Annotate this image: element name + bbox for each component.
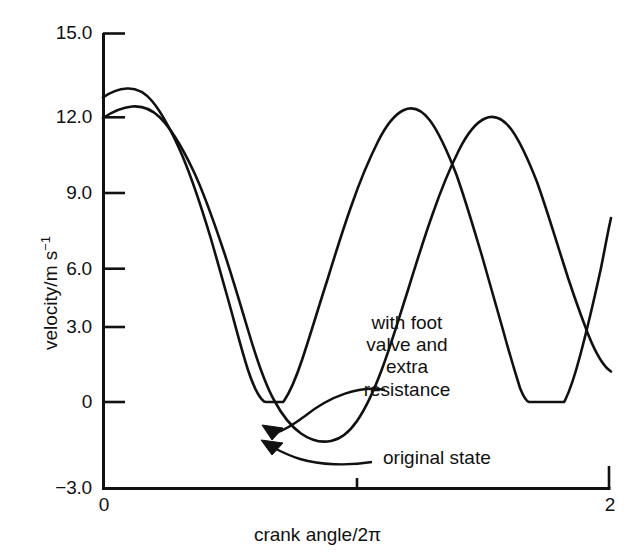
chart-figure: 15.0 12.0 9.0 6.0 3.0 0 −3.0 0 2 velocit… [0, 0, 635, 553]
original-state-arrow [261, 440, 372, 464]
annotation-line-2: valve and [337, 334, 477, 356]
y-tick-label-9: 9.0 [66, 182, 92, 204]
y-tick-label-minus3: −3.0 [55, 477, 92, 499]
x-tick-label-2: 2 [599, 494, 621, 516]
x-axis-title: crank angle/2π [0, 524, 635, 546]
x-tick-label-0: 0 [93, 494, 115, 516]
plot-area [0, 0, 635, 553]
annotation-line-3: extra [337, 356, 477, 378]
y-axis-title-exponent: −1 [38, 236, 53, 251]
y-tick-label-12: 12.0 [56, 106, 92, 128]
original-state-arrow-head [261, 440, 283, 455]
original-state-arrow-line [276, 449, 372, 464]
y-tick-label-15: 15.0 [56, 22, 92, 44]
x-axis-ticks [357, 466, 609, 488]
original-state-annotation: original state [383, 447, 491, 469]
y-tick-label-6: 6.0 [66, 258, 92, 280]
y-axis-title: velocity/m s−1 [38, 236, 62, 350]
annotation-line-1: with foot [337, 312, 477, 334]
y-tick-label-3: 3.0 [66, 316, 92, 338]
with-foot-valve-annotation: with foot valve and extra resistance [337, 312, 477, 401]
y-axis-title-base: velocity/m s [40, 251, 61, 350]
annotation-line-4: resistance [337, 379, 477, 401]
y-tick-label-0: 0 [82, 391, 92, 413]
